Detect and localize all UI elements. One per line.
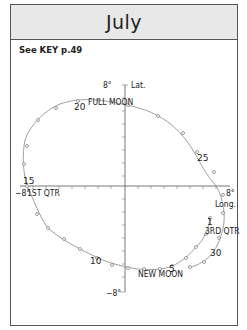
new-moon-label: NEW MOON <box>138 269 183 279</box>
day-10-label: 10 <box>90 256 102 266</box>
long-axis-label: Long. <box>215 199 236 209</box>
lat-axis-label: Lat. <box>131 80 145 90</box>
axis-ticks <box>33 85 216 292</box>
lat-max-label: 8° <box>103 80 112 90</box>
day-5-label: 5 <box>169 264 175 274</box>
full-moon-label: FULL MOON <box>88 97 133 107</box>
libration-curve <box>23 100 224 270</box>
day-25-label: 25 <box>197 153 208 163</box>
first-quarter-label: 1ST QTR <box>27 188 61 198</box>
third-quarter-label: 3RD QTR <box>205 226 240 236</box>
day-1-label: 1 <box>207 217 213 227</box>
lat-min-label: −8° <box>106 288 121 298</box>
day-15-label: 15 <box>23 176 34 186</box>
long-max-label: 8° <box>226 188 235 198</box>
day-20-label: 20 <box>74 102 86 112</box>
day-30-label: 30 <box>210 248 222 258</box>
day-markers <box>23 99 225 271</box>
libration-chart: 8° Lat. −8° −8° 8° Long. FULL MOON 1ST Q… <box>0 0 247 330</box>
